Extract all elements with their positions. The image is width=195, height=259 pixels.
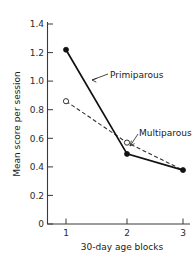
y-tick-label-0-6: 0.6 <box>30 134 45 144</box>
axis-lines <box>48 22 191 224</box>
y-tick-label-1-2: 1.2 <box>30 48 44 58</box>
x-axis-ticks <box>66 219 183 225</box>
annotation-label-multiparous: Multiparous <box>139 128 192 138</box>
annotation-label-primiparous: Primiparous <box>110 70 164 80</box>
annotation-primiparous: Primiparous <box>92 70 164 83</box>
y-axis-ticks <box>48 24 54 224</box>
series-markers-primiparous <box>64 47 186 172</box>
x-tick-label-3: 3 <box>180 228 186 238</box>
y-tick-label-1-4: 1.4 <box>30 19 45 29</box>
y-tick-label-0: 0 <box>38 219 44 229</box>
x-axis-title: 30-day age blocks <box>81 242 164 252</box>
y-tick-label-0-8: 0.8 <box>30 105 45 115</box>
y-tick-label-1-0: 1.0 <box>30 76 45 86</box>
y-tick-label-0-2: 0.2 <box>30 191 44 201</box>
x-axis-tick-labels: 1 2 3 <box>63 228 186 238</box>
x-tick-label-1: 1 <box>63 228 69 238</box>
series-line-primiparous <box>66 50 183 170</box>
line-chart-canvas: 1.4 1.2 1.0 0.8 0.6 0.4 0.2 0 1 2 3 30-d… <box>0 0 195 259</box>
annotation-multiparous: Multiparous <box>130 128 192 147</box>
y-tick-label-0-4: 0.4 <box>30 162 45 172</box>
y-axis-tick-labels: 1.4 1.2 1.0 0.8 0.6 0.4 0.2 0 <box>30 19 45 229</box>
chart-figure: 1.4 1.2 1.0 0.8 0.6 0.4 0.2 0 1 2 3 30-d… <box>0 0 195 259</box>
y-axis-title: Mean score per session <box>12 71 22 177</box>
x-tick-label-2: 2 <box>124 228 130 238</box>
